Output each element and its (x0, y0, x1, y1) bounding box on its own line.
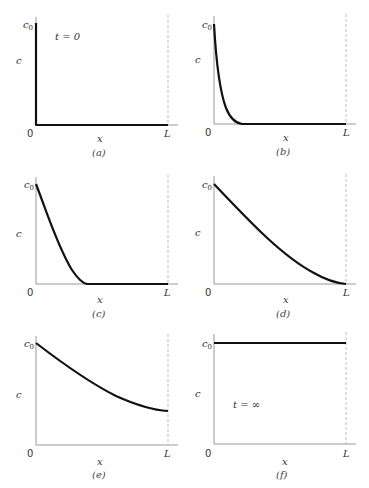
y-axis-label: c (16, 228, 22, 239)
x-axis-label: x (282, 456, 288, 467)
concentration-curve (214, 184, 346, 284)
panel-caption: (c) (92, 308, 106, 319)
panel-e: c0 c 0 L x (e) (16, 334, 178, 480)
y-axis-label: c (16, 389, 22, 400)
panel-a: c0 c t = 0 0 L x (a) (16, 15, 178, 158)
y-axis-label: c (195, 227, 201, 238)
y-tick-c0: c0 (202, 19, 212, 32)
x-axis-label: x (97, 133, 103, 144)
x-tick-0: 0 (27, 287, 33, 298)
x-tick-0: 0 (27, 448, 33, 459)
x-axis-label: x (97, 456, 103, 467)
concentration-curve (214, 24, 346, 124)
concentration-curve (36, 184, 168, 284)
x-tick-L: L (163, 448, 171, 459)
figure-six-panels: c0 c t = 0 0 L x (a) c0 c 0 L x (b) c0 c… (0, 0, 369, 488)
x-axis-label: x (283, 132, 289, 143)
x-tick-0: 0 (205, 127, 211, 138)
x-tick-L: L (342, 287, 350, 298)
panel-f: c0 c t = ∞ 0 L x (f) (195, 332, 356, 480)
panel-d: c0 c 0 L x (d) (195, 174, 356, 319)
y-tick-c0: c0 (24, 338, 34, 351)
x-tick-0: 0 (27, 128, 33, 139)
x-tick-0: 0 (205, 448, 211, 459)
y-tick-c0: c0 (24, 179, 34, 192)
y-tick-c0: c0 (202, 179, 212, 192)
panel-caption: (f) (276, 469, 288, 480)
panel-b: c0 c 0 L x (b) (195, 14, 356, 157)
x-tick-L: L (342, 448, 350, 459)
y-axis-label: c (195, 388, 201, 399)
x-tick-L: L (163, 128, 171, 139)
x-tick-0: 0 (205, 287, 211, 298)
time-annotation: t = 0 (55, 31, 81, 42)
x-axis-label: x (283, 294, 289, 305)
x-tick-L: L (163, 287, 171, 298)
x-tick-L: L (342, 127, 350, 138)
time-annotation: t = ∞ (233, 399, 260, 410)
panel-c: c0 c 0 L x (c) (16, 175, 178, 319)
panel-caption: (b) (276, 146, 290, 157)
panel-caption: (d) (276, 308, 290, 319)
y-tick-c0: c0 (23, 19, 33, 32)
y-tick-c0: c0 (202, 338, 212, 351)
x-axis-label: x (97, 294, 103, 305)
y-axis-label: c (195, 54, 201, 65)
panel-caption: (e) (92, 469, 106, 480)
concentration-curve (36, 343, 168, 411)
y-axis-label: c (16, 55, 22, 66)
panel-caption: (a) (92, 147, 106, 158)
